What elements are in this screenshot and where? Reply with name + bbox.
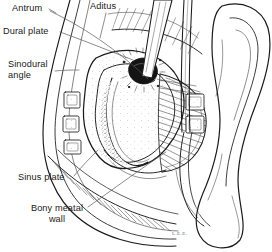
retroauricular-tissue — [176, 132, 210, 226]
label-aditus: Aditus — [90, 1, 116, 12]
label-sinus-plate: Sinus plate — [18, 172, 65, 183]
anatomical-figure: Antrum Aditus Dural plate Sinodural angl… — [0, 0, 272, 252]
retractor-blocks-left — [63, 92, 81, 154]
auricle — [196, 4, 270, 248]
label-antrum: Antrum — [12, 3, 42, 14]
artist-signature: L.E.E. — [172, 231, 187, 236]
label-sinodural-angle: Sinodural angle — [8, 59, 48, 80]
leader-dural-plate — [60, 32, 133, 60]
leader-aditus — [100, 13, 106, 38]
label-dural-plate: Dural plate — [3, 26, 49, 37]
leader-sinodural — [55, 70, 79, 71]
label-bony-meatal-wall: Bony meatal wall — [18, 203, 96, 224]
